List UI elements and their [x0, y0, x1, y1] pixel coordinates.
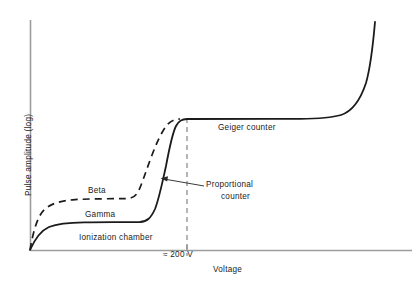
beta-curve [30, 119, 180, 250]
gamma-curve [30, 22, 375, 250]
figure-container: Pulse amplitude (log) Voltage ≈ 200 V Ge… [0, 0, 414, 287]
x-axis-label: Voltage [213, 265, 242, 274]
proportional-counter-label-line2: counter [221, 192, 250, 201]
proportional-counter-label-line1: Proportional [206, 180, 253, 189]
geiger-counter-label: Geiger counter [218, 123, 276, 132]
y-axis-label: Pulse amplitude (log) [24, 114, 33, 196]
gamma-curve-label: Gamma [85, 210, 115, 219]
chart-plot-area [0, 0, 414, 287]
proportional-leader-line [164, 179, 204, 186]
ionization-chamber-label: Ionization chamber [79, 233, 153, 242]
beta-curve-label: Beta [88, 186, 106, 195]
xtick-label-200v: ≈ 200 V [163, 250, 193, 259]
